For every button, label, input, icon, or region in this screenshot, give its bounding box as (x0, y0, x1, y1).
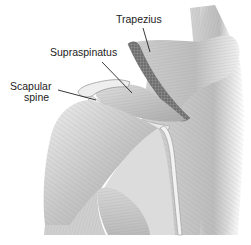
scapular-spine-label-line2: spine (24, 92, 49, 103)
edge-fade (200, 0, 251, 245)
trapezius-label: Trapezius (116, 14, 162, 25)
shoulder-anatomy-figure: Trapezius Supraspinatus Scapular spine (0, 0, 251, 245)
anatomy-illustration (0, 0, 251, 245)
supraspinatus-label: Supraspinatus (50, 47, 117, 58)
